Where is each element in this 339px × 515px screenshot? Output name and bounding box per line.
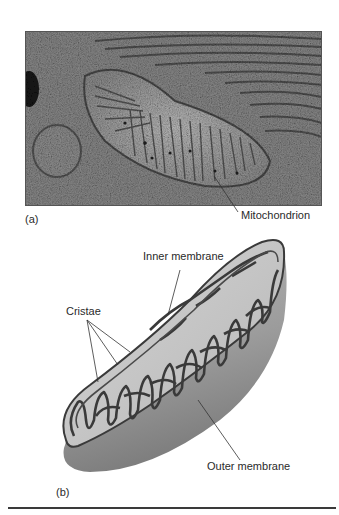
panel-b-label: (b) [56,486,69,498]
cristae-leader-line-2 [87,320,118,365]
inner-membrane-label: Inner membrane [143,250,224,262]
cristae-label: Cristae [66,305,101,317]
mitochondrion-leader-line [214,176,238,212]
cristae-leader-line-3 [87,320,130,352]
bottom-rule [8,507,336,509]
cristae-leader-line-1 [87,320,98,382]
outer-membrane-label: Outer membrane [207,460,290,472]
